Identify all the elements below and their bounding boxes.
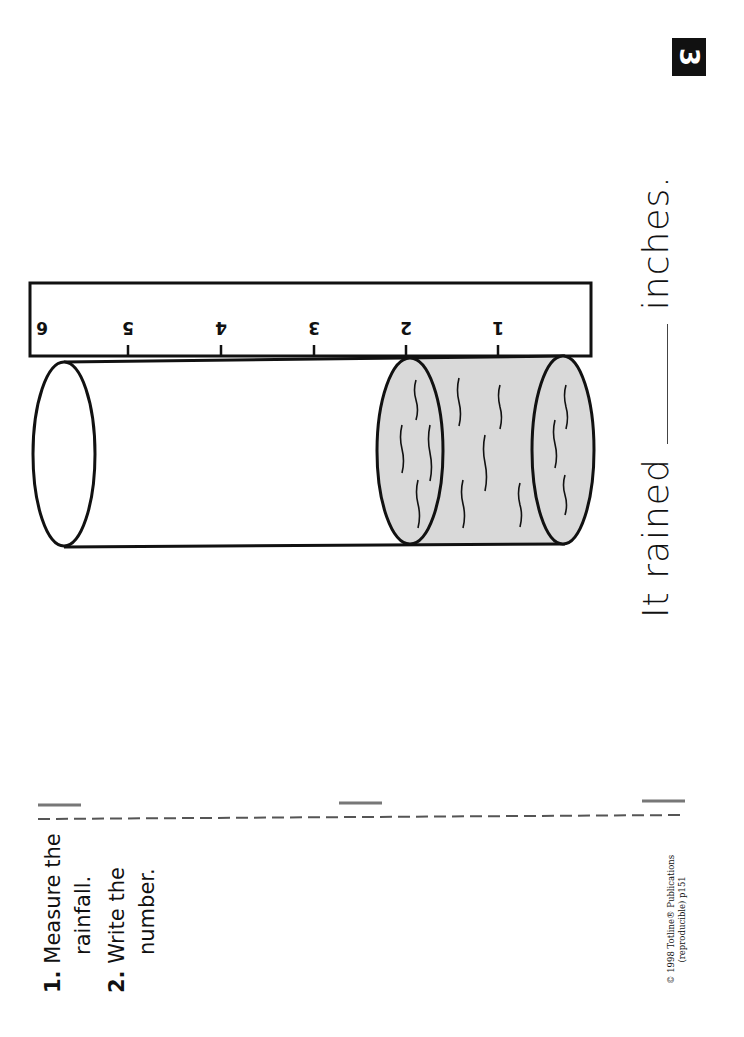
instruction-2-number: 2. bbox=[105, 970, 129, 993]
instruction-2-cont: number. bbox=[132, 868, 162, 955]
copyright: © 1998 Totline® Publications (reproducib… bbox=[666, 855, 688, 984]
instruction-1-cont: rainfall. bbox=[68, 876, 98, 955]
instruction-1-text-cont: rainfall. bbox=[71, 876, 95, 955]
instruction-1: 1. Measure the bbox=[38, 833, 68, 993]
instruction-1-text: Measure the bbox=[41, 833, 65, 963]
copyright-line-2: (reproducible) p151 bbox=[677, 855, 688, 984]
instruction-2-text-cont: number. bbox=[135, 868, 159, 955]
instruction-1-number: 1. bbox=[41, 970, 65, 993]
instruction-2: 2. Write the bbox=[102, 867, 132, 993]
copyright-line-1: © 1998 Totline® Publications bbox=[666, 855, 677, 984]
instruction-2-text: Write the bbox=[105, 867, 129, 964]
